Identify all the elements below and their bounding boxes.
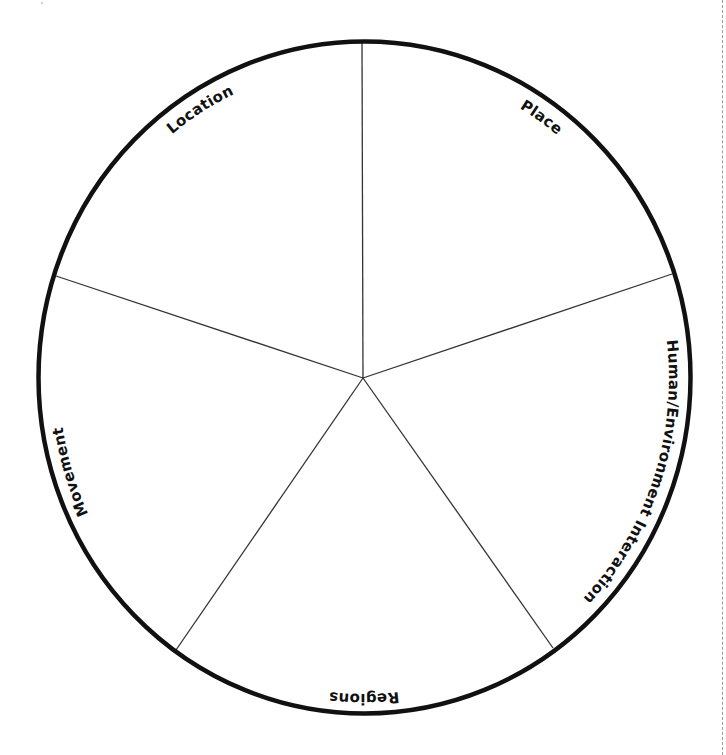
segment-label-movement: Movement	[49, 426, 92, 519]
cut-line	[722, 0, 723, 755]
divider-top	[362, 42, 363, 378]
wedge-dividers	[56, 42, 672, 650]
scan-artifact	[41, 2, 43, 4]
five-themes-wheel: Location Place Human/Environment Interac…	[0, 0, 726, 755]
divider-lower-right	[363, 378, 553, 648]
segment-label-regions: Regions	[328, 688, 400, 708]
segment-label-place: Place	[517, 96, 566, 138]
divider-lower-left	[176, 378, 363, 650]
divider-upper-right	[363, 274, 672, 378]
divider-upper-left	[56, 276, 363, 378]
regions-label: Regions	[328, 688, 400, 708]
place-label: Place	[517, 96, 566, 138]
movement-label: Movement	[49, 426, 92, 519]
